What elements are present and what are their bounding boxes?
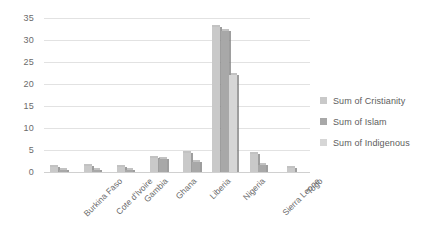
bar-group bbox=[144, 18, 177, 172]
legend-swatch-icon bbox=[320, 97, 327, 104]
bar-face bbox=[159, 159, 167, 172]
bar bbox=[212, 27, 220, 172]
x-axis-tick-label: Ghana bbox=[174, 176, 199, 201]
legend-item[interactable]: Sum of Islam bbox=[320, 111, 432, 132]
bar-top-shading bbox=[192, 160, 200, 162]
bar-group bbox=[177, 18, 210, 172]
bar-top-shading bbox=[117, 165, 125, 167]
y-axis-tick-label: 0 bbox=[29, 168, 34, 177]
bar-side-shading bbox=[237, 75, 239, 172]
bar-top-shading bbox=[287, 166, 295, 168]
x-axis-tick-label: Liberia bbox=[207, 176, 232, 201]
bar bbox=[229, 75, 237, 172]
y-axis-tick-label: 35 bbox=[24, 14, 34, 23]
bar-top-shading bbox=[92, 168, 100, 170]
y-axis-tick-label: 15 bbox=[24, 102, 34, 111]
legend-item[interactable]: Sum of Indigenous bbox=[320, 132, 432, 153]
bar bbox=[159, 159, 167, 172]
legend-swatch-icon bbox=[320, 139, 327, 146]
y-axis-tick-label: 30 bbox=[24, 36, 34, 45]
bar-side-shading bbox=[200, 162, 202, 172]
bar-side-shading bbox=[167, 159, 169, 172]
bar-group bbox=[77, 18, 110, 172]
bar-face bbox=[258, 165, 266, 172]
legend-label: Sum of Indigenous bbox=[333, 138, 410, 148]
y-axis-tick-label: 20 bbox=[24, 80, 34, 89]
y-axis-tick-label: 10 bbox=[24, 124, 34, 133]
bar-group bbox=[277, 18, 310, 172]
bar bbox=[183, 153, 191, 172]
bar bbox=[258, 165, 266, 172]
bars-layer bbox=[44, 18, 310, 172]
legend-label: Sum of Cristianity bbox=[333, 96, 405, 106]
bar-top-shading bbox=[183, 151, 191, 153]
bar-face bbox=[183, 153, 191, 172]
legend-swatch-icon bbox=[320, 118, 327, 125]
bar-top-shading bbox=[84, 164, 92, 166]
bar-side-shading bbox=[266, 165, 268, 172]
bar-face bbox=[150, 158, 158, 172]
bar-group bbox=[244, 18, 277, 172]
legend-item[interactable]: Sum of Cristianity bbox=[320, 90, 432, 111]
bar-top-shading bbox=[250, 152, 258, 154]
bar-chart: 05101520253035 Burkina FasoCote d'Ivoire… bbox=[0, 0, 435, 246]
plot-area bbox=[44, 18, 310, 172]
bar-face bbox=[250, 154, 258, 172]
bar-face bbox=[192, 162, 200, 172]
bar-top-shading bbox=[50, 165, 58, 167]
chart-legend: Sum of CristianitySum of IslamSum of Ind… bbox=[320, 90, 432, 153]
bar-top-shading bbox=[150, 156, 158, 158]
bar-top-shading bbox=[258, 163, 266, 165]
x-axis-tick-label: Nigeria bbox=[241, 176, 267, 202]
bar-group bbox=[44, 18, 77, 172]
y-axis-tick-label: 5 bbox=[29, 146, 34, 155]
bar-top-shading bbox=[229, 73, 237, 75]
bar bbox=[250, 154, 258, 172]
bar bbox=[192, 162, 200, 172]
bar-top-shading bbox=[212, 25, 220, 27]
y-axis-tick-label: 25 bbox=[24, 58, 34, 67]
bar bbox=[221, 31, 229, 172]
bar bbox=[150, 158, 158, 172]
bar-top-shading bbox=[221, 29, 229, 31]
bar-face bbox=[221, 31, 229, 172]
bar-top-shading bbox=[159, 157, 167, 159]
bar-face bbox=[229, 75, 237, 172]
y-axis: 05101520253035 bbox=[0, 18, 40, 172]
bar-top-shading bbox=[125, 168, 133, 170]
bar-top-shading bbox=[59, 168, 67, 170]
bar-group bbox=[210, 18, 243, 172]
x-axis: Burkina FasoCote d'IvoireGambiaGhanaLibe… bbox=[44, 172, 310, 246]
x-axis-tick-label: Togo bbox=[305, 176, 325, 196]
bar-group bbox=[111, 18, 144, 172]
legend-label: Sum of Islam bbox=[333, 117, 387, 127]
bar-face bbox=[212, 27, 220, 172]
